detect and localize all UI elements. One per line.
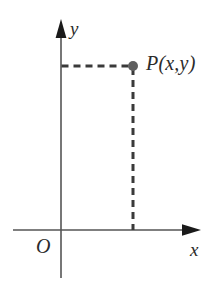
y-axis-arrowhead (56, 19, 67, 38)
coordinate-plane-figure: y x O P(x,y) (0, 0, 221, 284)
y-axis-label: y (70, 19, 78, 38)
origin-label: O (36, 236, 50, 256)
point-p-marker (128, 61, 138, 71)
x-axis-arrowhead (182, 224, 201, 236)
point-p-label: P(x,y) (146, 53, 196, 73)
figure-canvas (0, 0, 221, 284)
x-axis-label: x (190, 240, 198, 259)
